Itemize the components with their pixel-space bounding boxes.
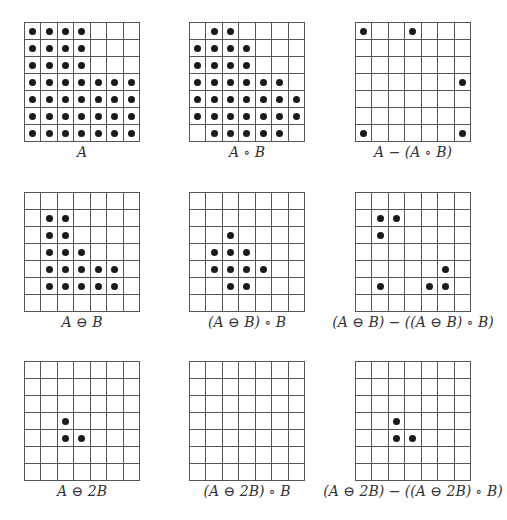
grid-cell (272, 125, 288, 142)
pixel-dot (46, 96, 53, 103)
grid-cell (272, 278, 288, 295)
grid-cell (455, 447, 471, 464)
grid-cell (422, 125, 438, 142)
grid-cell (356, 379, 372, 396)
grid-cell (239, 57, 255, 74)
grid-cell (124, 362, 140, 379)
grid-cell (356, 244, 372, 261)
grid-cell (107, 430, 123, 447)
grid-cell (239, 23, 255, 40)
grid-cell (438, 40, 454, 57)
grid-cell (455, 396, 471, 413)
grid-cell (422, 464, 438, 481)
grid-cell (107, 413, 123, 430)
grid-cell (372, 227, 388, 244)
grid-cell (455, 244, 471, 261)
grid-cell (239, 464, 255, 481)
grid-cell (41, 261, 57, 278)
pixel-dot (377, 215, 384, 222)
grid-cell (455, 295, 471, 312)
grid-cell (206, 362, 222, 379)
grid-cell (289, 379, 305, 396)
grid-cell (25, 464, 41, 481)
grid-cell (405, 40, 421, 57)
grid-cell (206, 91, 222, 108)
grid-cell (455, 193, 471, 210)
grid-cell (206, 464, 222, 481)
grid-cell (190, 413, 206, 430)
grid-cell (58, 430, 74, 447)
grid-cell (438, 464, 454, 481)
pixel-dot (211, 62, 218, 69)
grid-cell (107, 91, 123, 108)
grid-cell (239, 193, 255, 210)
grid-cell (389, 227, 405, 244)
grid-cell (455, 40, 471, 57)
grid-cell (223, 74, 239, 91)
grid-cell (239, 40, 255, 57)
grid-cell (356, 74, 372, 91)
grid-cell (405, 379, 421, 396)
grid-cell (58, 447, 74, 464)
grid-cell (74, 125, 90, 142)
grid-cell (356, 413, 372, 430)
grid-cell (124, 379, 140, 396)
grid-cell (405, 396, 421, 413)
grid-cell (25, 40, 41, 57)
grid-cell (356, 227, 372, 244)
grid-cell (405, 74, 421, 91)
grid-cell (124, 447, 140, 464)
grid-cell (405, 210, 421, 227)
pixel-dot (459, 130, 466, 137)
pixel-dot (95, 130, 102, 137)
grid-cell (256, 295, 272, 312)
grid-cell (256, 193, 272, 210)
pixel-dot (227, 130, 234, 137)
grid-cell (422, 379, 438, 396)
grid-cell (422, 413, 438, 430)
pixel-dot (78, 130, 85, 137)
pixel-dot (227, 45, 234, 52)
grid-cell (91, 362, 107, 379)
grid-cell (74, 379, 90, 396)
grid-cell (422, 430, 438, 447)
grid-cell (206, 430, 222, 447)
panel-a: A (24, 22, 140, 142)
grid-cell (107, 125, 123, 142)
grid-cell (272, 210, 288, 227)
pixel-grid (189, 22, 305, 142)
grid-cell (239, 227, 255, 244)
pixel-dot (46, 249, 53, 256)
grid-cell (289, 91, 305, 108)
pixel-dot (29, 79, 36, 86)
grid-cell (289, 447, 305, 464)
grid-cell (422, 23, 438, 40)
grid-cell (25, 362, 41, 379)
grid-cell (256, 108, 272, 125)
pixel-dot (78, 62, 85, 69)
grid-cell (91, 379, 107, 396)
pixel-dot (111, 113, 118, 120)
pixel-dot (194, 113, 201, 120)
grid-cell (372, 23, 388, 40)
grid-cell (405, 193, 421, 210)
grid-cell (223, 430, 239, 447)
grid-cell (74, 40, 90, 57)
grid-cell (455, 23, 471, 40)
grid-cell (206, 40, 222, 57)
pixel-dot (62, 232, 69, 239)
grid-cell (124, 464, 140, 481)
grid-cell (455, 362, 471, 379)
grid-cell (256, 413, 272, 430)
pixel-dot (276, 79, 283, 86)
grid-cell (272, 193, 288, 210)
grid-cell (41, 57, 57, 74)
grid-cell (289, 108, 305, 125)
grid-cell (389, 74, 405, 91)
grid-cell (107, 244, 123, 261)
grid-cell (190, 40, 206, 57)
grid-cell (256, 227, 272, 244)
grid-cell (356, 362, 372, 379)
grid-cell (124, 108, 140, 125)
grid-cell (25, 23, 41, 40)
